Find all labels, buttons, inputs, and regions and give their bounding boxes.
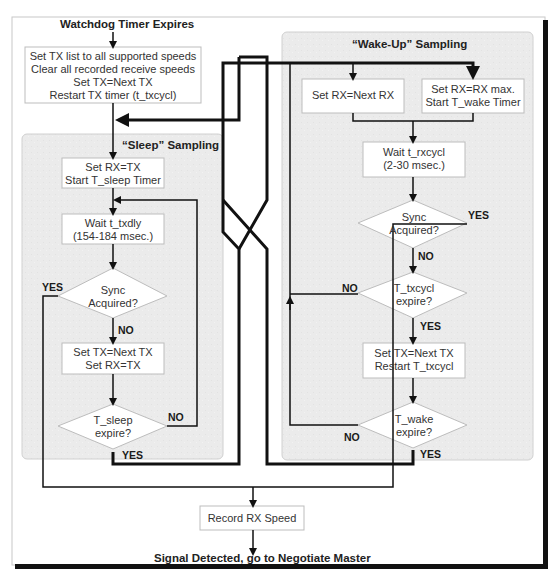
wake-expire-no: NO [344,431,360,443]
sleep-next-text: Set TX=Next TX Set RX=TX [62,346,164,372]
sleep-sync-yes: YES [42,281,63,293]
wake-txcycl-text: T_txcycl expire? [363,282,465,308]
end-label: Signal Detected, go to Negotiate Master [154,552,354,564]
sleep-expire-no: NO [168,411,184,423]
wake-txcycl-yes: YES [420,320,441,332]
wake-panel-title: “Wake-Up” Sampling [352,38,462,50]
sleep-expire-text: T_sleep expire? [62,414,164,440]
wake-expire-text: T_wake expire? [363,413,465,439]
wake-wait-text: Wait t_rxcycl (2-30 msec.) [363,146,465,172]
wake-sync-yes: YES [468,209,489,221]
wake-sync-no: NO [418,250,434,262]
sleep-wait-text: Wait t_txdly (154-184 msec.) [62,217,164,243]
wake-sync-text: Sync Acquired? [363,211,465,237]
wake-next-tx-text: Set TX=Next TX Restart T_txcycl [363,347,465,373]
wake-rx-max-text: Set RX=RX max. Start T_wake Timer [422,83,524,109]
init-box-text: Set TX list to all supported speeds Clea… [25,50,201,102]
wake-txcycl-no: NO [342,282,358,294]
sleep-sync-text: Sync Acquired? [62,284,164,310]
sleep-start-text: Set RX=TX Start T_sleep Timer [62,161,164,187]
sleep-panel-title: “Sleep” Sampling [122,139,212,151]
start-label: Watchdog Timer Expires [60,18,166,30]
wake-expire-yes: YES [420,448,441,460]
sleep-sync-no: NO [118,324,134,336]
sleep-expire-yes: YES [122,449,143,461]
record-rx-text: Record RX Speed [200,512,304,525]
wake-next-rx-text: Set RX=Next RX [302,89,404,102]
